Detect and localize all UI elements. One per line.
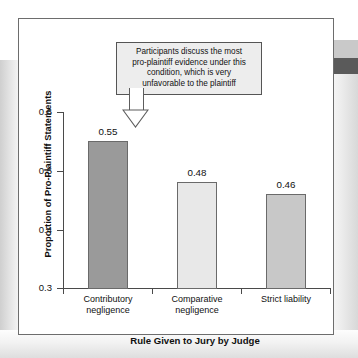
y-tick-label-0.6: 0.6 — [22, 106, 52, 117]
y-tick-0.5 — [57, 171, 64, 172]
y-tick-label-0.3: 0.3 — [22, 282, 52, 293]
x-cat-1-line-0: Comparative — [155, 294, 239, 305]
callout-line-2: pro-plaintiff evidence under this — [122, 58, 256, 69]
x-tick-1 — [152, 288, 153, 294]
y-axis-line — [63, 112, 64, 289]
x-cat-0-line-0: Contributory — [66, 294, 150, 305]
x-category-label-contributory-negligence: Contributory negligence — [66, 294, 150, 316]
bar-value-strict-liability: 0.46 — [256, 179, 316, 190]
y-tick-0.6 — [57, 112, 64, 113]
bar-value-contributory-negligence: 0.55 — [78, 126, 138, 137]
x-tick-start — [63, 288, 64, 294]
x-cat-0-line-1: negligence — [66, 305, 150, 316]
x-cat-2-line-0: Strict liability — [244, 294, 328, 305]
bar-value-comparative-negligence: 0.48 — [167, 167, 227, 178]
callout-line-3: condition, which is very — [122, 68, 256, 79]
x-tick-end — [330, 288, 331, 294]
bar-comparative-negligence[interactable] — [177, 182, 217, 289]
callout-arrow-stem — [129, 88, 144, 110]
callout-line-1: Participants discuss the most — [122, 47, 256, 58]
x-tick-2 — [241, 288, 242, 294]
x-category-label-strict-liability: Strict liability — [244, 294, 328, 305]
x-cat-1-line-1: negligence — [155, 305, 239, 316]
y-tick-label-0.4: 0.4 — [22, 224, 52, 235]
bar-contributory-negligence[interactable] — [88, 141, 128, 289]
y-tick-0.4 — [57, 230, 64, 231]
y-tick-label-0.5: 0.5 — [22, 165, 52, 176]
bar-strict-liability[interactable] — [266, 194, 306, 289]
x-category-label-comparative-negligence: Comparative negligence — [155, 294, 239, 316]
x-axis-title: Rule Given to Jury by Judge — [37, 335, 353, 346]
